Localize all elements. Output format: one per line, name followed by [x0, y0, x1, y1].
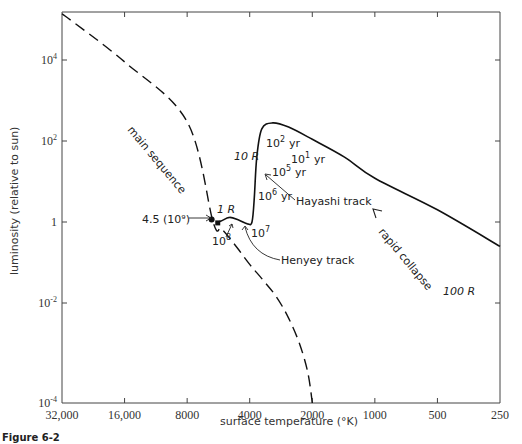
x-tick-label: 250: [491, 408, 509, 422]
age-1e2-exp: 2: [280, 135, 285, 144]
age-1e2-unit: yr: [289, 137, 301, 150]
series: [62, 14, 500, 403]
rapid-collapse-label: rapid collapse: [376, 226, 436, 293]
hr-diagram: 32,00016,0008000400020001000500250 10-41…: [0, 0, 522, 444]
age-1e1-unit: yr: [314, 153, 326, 166]
y-tick-label: 104: [41, 52, 57, 67]
age-sun-arrow: [189, 215, 211, 221]
hayashi-track-label: Hayashi track: [296, 195, 372, 208]
age-1e7-exp: 7: [265, 225, 270, 234]
main-sequence-label: main sequence: [125, 124, 189, 197]
age-1e2-label: 102yr: [266, 135, 301, 150]
marker-1e8-point: [215, 220, 220, 225]
age-1e5-label: 105yr: [272, 164, 307, 179]
age-1e1-label: 101yr: [291, 151, 326, 166]
age-1e1-base: 10: [291, 153, 305, 166]
y-axis-title: luminosity (relative to sun): [8, 127, 21, 275]
age-1e6-base: 10: [258, 190, 272, 203]
x-axis-title: surface temperature (°K): [220, 415, 358, 428]
x-tick-label: 8000: [175, 408, 199, 422]
age-1e6-label: 106yr: [258, 188, 293, 203]
age-1e8-label: 108: [212, 233, 231, 248]
x-tick-label: 1000: [363, 408, 387, 422]
age-1e5-base: 10: [272, 166, 286, 179]
age-1e5-unit: yr: [295, 166, 307, 179]
age-1e7-label: 107: [251, 225, 270, 240]
age-sun-label: 4.5 (10⁹): [142, 213, 190, 226]
age-1e2-base: 10: [266, 137, 280, 150]
annotations: surface temperature (°K) luminosity (rel…: [2, 124, 475, 443]
figure-caption: Figure 6-2: [2, 432, 60, 443]
henyey-track-label: Henyey track: [281, 254, 355, 267]
age-1e8-base: 10: [212, 235, 226, 248]
y-tick-label: 102: [41, 133, 57, 148]
radius-10-label: 10 R: [234, 150, 259, 163]
y-tick-label: 10-2: [38, 295, 57, 310]
age-1e7-base: 10: [251, 227, 265, 240]
x-ticks: 32,00016,0008000400020001000500250: [46, 12, 510, 422]
age-1e6-exp: 6: [272, 188, 277, 197]
age-1e1-exp: 1: [305, 151, 310, 160]
x-tick-label: 32,000: [46, 408, 79, 422]
radius-1-label: 1 R: [217, 203, 235, 216]
x-tick-label: 500: [428, 408, 446, 422]
main-sequence-line: [62, 14, 312, 403]
radius-100-label: 100 R: [443, 285, 475, 298]
rapid-collapse-arrow-icon: [373, 209, 382, 218]
x-tick-label: 16,000: [108, 408, 141, 422]
y-tick-label: 1: [51, 215, 57, 229]
